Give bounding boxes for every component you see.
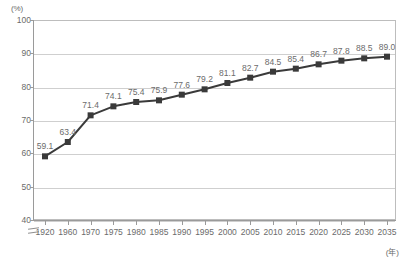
data-point-label: 71.4 (78, 100, 104, 110)
data-point-label: 59.1 (32, 141, 58, 151)
series-marker (156, 97, 162, 103)
data-point-label: 63.4 (55, 127, 81, 137)
data-point-label: 89.0 (374, 42, 400, 52)
series-marker (384, 54, 390, 60)
series-marker (224, 80, 230, 86)
y-axis-tick-mark (30, 220, 33, 221)
series-marker (270, 69, 276, 75)
series-marker (361, 55, 367, 61)
series-marker (110, 103, 116, 109)
series-marker (133, 99, 139, 105)
series-marker (338, 58, 344, 64)
series-marker (179, 92, 185, 98)
line-chart: (%) (年) 405060708090100 1920196019701975… (0, 0, 405, 262)
y-axis-tick-mark (30, 20, 33, 21)
y-axis-tick-mark (30, 120, 33, 121)
y-axis-tick-mark (30, 87, 33, 88)
y-axis-tick-mark (30, 153, 33, 154)
y-axis-tick-mark (30, 53, 33, 54)
series-marker (88, 112, 94, 118)
series-marker (202, 86, 208, 92)
series-marker (316, 61, 322, 67)
y-axis-tick-mark (30, 187, 33, 188)
series-marker (42, 153, 48, 159)
series-marker (65, 139, 71, 145)
series-marker (293, 66, 299, 72)
series-marker (247, 75, 253, 81)
